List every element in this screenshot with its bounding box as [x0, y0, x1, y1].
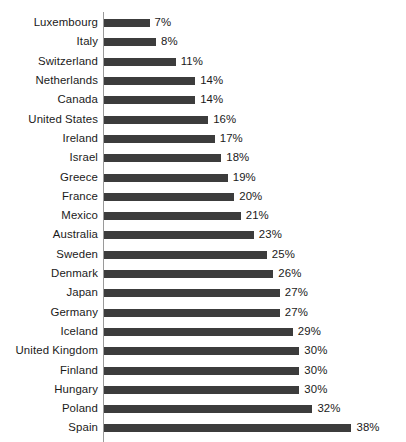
bar-value-label: 11% [181, 56, 203, 67]
bar-row: Estonia39% [0, 438, 406, 442]
bar [104, 289, 280, 297]
bar-value-label: 26% [278, 268, 301, 279]
category-label: United Kingdom [16, 346, 98, 357]
bar-row: Luxembourg7% [0, 14, 406, 33]
bar [104, 212, 241, 220]
bar [104, 347, 299, 355]
bar [104, 367, 299, 375]
bar-row: Hungary30% [0, 380, 406, 399]
category-label: Switzerland [38, 56, 98, 67]
category-label: Denmark [51, 268, 98, 279]
bar-row: France20% [0, 187, 406, 206]
bar [104, 251, 267, 259]
bar-value-label: 30% [304, 365, 327, 376]
bar-row: Switzerland11% [0, 52, 406, 71]
bar [104, 309, 280, 317]
bar-row: Poland32% [0, 400, 406, 419]
category-label: Canada [57, 95, 98, 106]
bar [104, 193, 234, 201]
bar-row: United Kingdom30% [0, 342, 406, 361]
bar [104, 19, 150, 27]
category-label: Poland [62, 403, 98, 414]
bar-row: Sweden25% [0, 245, 406, 264]
bar [104, 96, 195, 104]
bar [104, 386, 299, 394]
bar-value-label: 23% [259, 230, 282, 241]
bar-row: Germany27% [0, 303, 406, 322]
bar-row: Israel18% [0, 149, 406, 168]
bar-row: Netherlands14% [0, 71, 406, 90]
category-label: Iceland [61, 326, 98, 337]
bar [104, 77, 195, 85]
bar-value-label: 21% [246, 210, 269, 221]
bar-value-label: 25% [272, 249, 295, 260]
bar-value-label: 7% [155, 17, 172, 28]
category-label: Hungary [54, 384, 98, 395]
bar-value-label: 8% [161, 37, 178, 48]
bar-row: Australia23% [0, 226, 406, 245]
bar-value-label: 19% [233, 172, 256, 183]
bar [104, 424, 351, 432]
bar-value-label: 14% [200, 75, 223, 86]
bar-value-label: 29% [298, 326, 321, 337]
bar-value-label: 17% [220, 133, 243, 144]
bar [104, 405, 312, 413]
category-label: Israel [70, 153, 98, 164]
bar-chart: Luxembourg7%Italy8%Switzerland11%Netherl… [0, 0, 406, 442]
bar [104, 231, 254, 239]
bar-value-label: 32% [317, 403, 340, 414]
bar [104, 174, 228, 182]
category-label: Greece [60, 172, 98, 183]
bar-row: United States16% [0, 110, 406, 129]
category-label: Luxembourg [34, 17, 98, 28]
bar [104, 38, 156, 46]
bar-row: Canada14% [0, 91, 406, 110]
bar-value-label: 27% [285, 307, 308, 318]
category-label: Mexico [61, 210, 98, 221]
bar-row: Italy8% [0, 33, 406, 52]
bar-row: Denmark26% [0, 264, 406, 283]
bar-row: Finland30% [0, 361, 406, 380]
bar-value-label: 18% [226, 153, 249, 164]
category-label: Spain [68, 423, 98, 434]
category-label: France [62, 191, 98, 202]
bar [104, 58, 176, 66]
bar-row: Mexico21% [0, 207, 406, 226]
bar-value-label: 30% [304, 346, 327, 357]
bar-value-label: 14% [200, 95, 223, 106]
bar [104, 154, 221, 162]
category-label: United States [28, 114, 98, 125]
category-label: Ireland [62, 133, 98, 144]
bar-value-label: 27% [285, 288, 308, 299]
bar-row: Spain38% [0, 419, 406, 438]
bar-row: Greece19% [0, 168, 406, 187]
bar-value-label: 38% [356, 423, 379, 434]
plot-area: Luxembourg7%Italy8%Switzerland11%Netherl… [0, 0, 406, 442]
bar-row: Iceland29% [0, 322, 406, 341]
bar-row: Japan27% [0, 284, 406, 303]
bar-row: Ireland17% [0, 129, 406, 148]
bar [104, 270, 273, 278]
category-label: Italy [77, 37, 98, 48]
category-label: Sweden [56, 249, 98, 260]
bar-value-label: 16% [213, 114, 236, 125]
category-label: Germany [50, 307, 98, 318]
bar-value-label: 20% [239, 191, 262, 202]
bar [104, 135, 215, 143]
category-label: Australia [53, 230, 98, 241]
category-label: Finland [60, 365, 98, 376]
bar-value-label: 30% [304, 384, 327, 395]
bar [104, 328, 293, 336]
category-label: Netherlands [35, 75, 98, 86]
category-label: Japan [66, 288, 98, 299]
bar [104, 116, 208, 124]
